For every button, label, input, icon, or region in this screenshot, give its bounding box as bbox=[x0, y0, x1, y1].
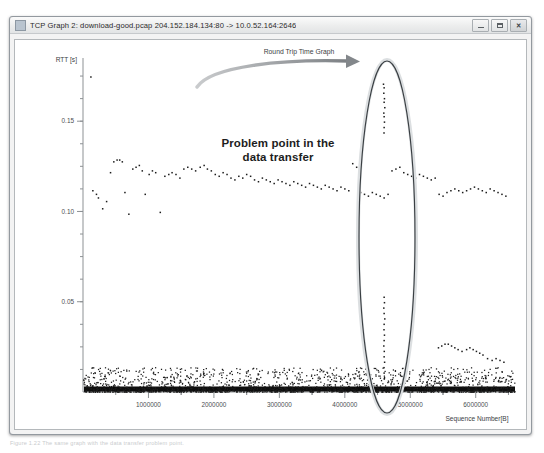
baseline-dense-band bbox=[83, 367, 515, 393]
x-tick-label: 4000000 bbox=[332, 401, 357, 408]
app-graph-icon bbox=[15, 20, 26, 31]
chart-title: Round Trip Time Graph bbox=[264, 48, 335, 56]
window-title: TCP Graph 2: download-good.pcap 204.152.… bbox=[30, 21, 296, 30]
window-client-area: 0.050.100.15 100000020000003000000400000… bbox=[14, 39, 527, 430]
x-tick-label: 1000000 bbox=[136, 401, 161, 408]
scatter-points bbox=[90, 76, 506, 379]
annotation-line-1: Problem point in the bbox=[183, 136, 373, 150]
maximize-button[interactable] bbox=[491, 19, 508, 32]
y-tick-label: 0.10 bbox=[62, 208, 75, 215]
tcp-graph-window: TCP Graph 2: download-good.pcap 204.152.… bbox=[9, 16, 532, 435]
x-axis-ticks: 1000000200000030000004000000500000060000… bbox=[116, 392, 509, 408]
annotation-line-2: data transfer bbox=[183, 150, 373, 164]
x-axis-title: Sequence Number[B] bbox=[445, 415, 508, 423]
plot-axes bbox=[83, 58, 515, 392]
window-titlebar[interactable]: TCP Graph 2: download-good.pcap 204.152.… bbox=[10, 17, 531, 34]
y-tick-label: 0.05 bbox=[62, 298, 75, 305]
y-tick-label: 0.15 bbox=[62, 117, 75, 124]
minimize-button[interactable] bbox=[472, 19, 489, 32]
close-button[interactable]: ✕ bbox=[510, 19, 527, 32]
figure-caption: Figure 1.22 The same graph with the data… bbox=[10, 440, 430, 446]
window-controls: ✕ bbox=[472, 19, 527, 32]
x-tick-label: 3000000 bbox=[267, 401, 292, 408]
x-tick-label: 6000000 bbox=[463, 401, 488, 408]
rtt-graph-plot[interactable]: 0.050.100.15 100000020000003000000400000… bbox=[15, 40, 526, 429]
figure-root: TCP Graph 2: download-good.pcap 204.152.… bbox=[0, 0, 544, 453]
annotation-callout: Problem point in the data transfer bbox=[183, 136, 373, 165]
rtt-scatter-svg: 0.050.100.15 100000020000003000000400000… bbox=[15, 40, 526, 429]
x-tick-label: 5000000 bbox=[398, 401, 423, 408]
y-axis-ticks: 0.050.100.15 bbox=[62, 76, 83, 369]
y-axis-title: RTT [s] bbox=[56, 56, 78, 64]
x-tick-label: 2000000 bbox=[201, 401, 226, 408]
